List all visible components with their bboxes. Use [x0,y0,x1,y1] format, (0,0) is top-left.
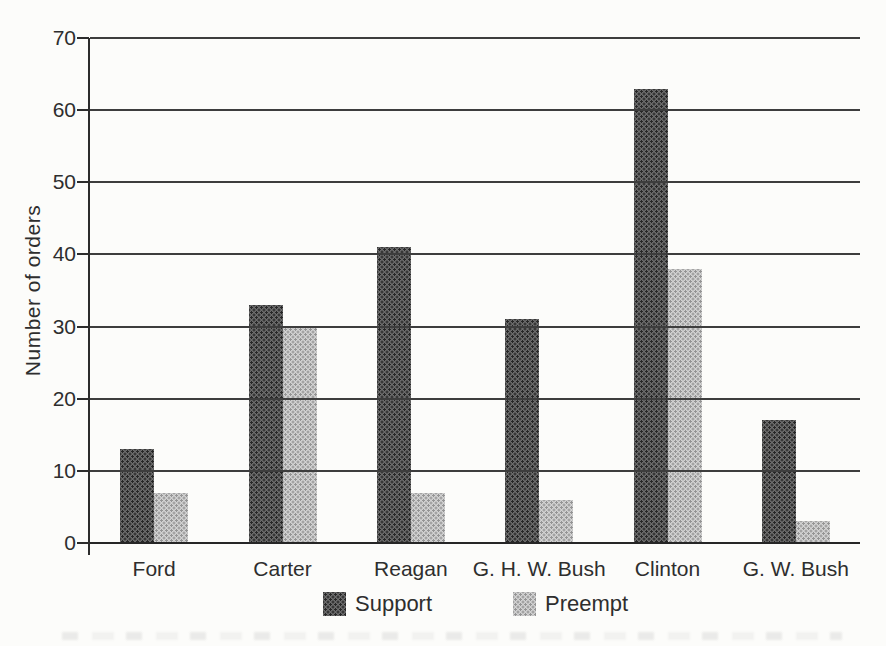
category-label-g-w-bush: G. W. Bush [716,557,876,581]
y-tick-70 [77,37,89,39]
gridline-40 [90,253,860,255]
bar-preempt-clinton [668,269,702,543]
y-tick-label-0: 0 [0,531,76,555]
bar-preempt-carter [283,327,317,543]
bar-support-g-h-w-bush [505,319,539,543]
y-tick-60 [77,109,89,111]
plot-area [90,38,860,543]
y-tick-40 [77,253,89,255]
legend-item-support: Support [323,591,432,617]
y-tick-label-30: 30 [0,315,76,339]
y-tick-label-10: 10 [0,459,76,483]
y-tick-label-70: 70 [0,26,76,50]
y-tick-30 [77,326,89,328]
y-tick-label-20: 20 [0,387,76,411]
legend-label-support: Support [355,591,432,617]
bar-preempt-g-h-w-bush [539,500,573,543]
cropped-caption-remnant [62,632,842,640]
y-tick-0 [77,542,89,544]
gridline-50 [90,181,860,183]
gridline-30 [90,326,860,328]
y-tick-label-60: 60 [0,98,76,122]
bar-support-carter [249,305,283,543]
gridline-0 [90,542,860,544]
gridline-10 [90,470,860,472]
bar-preempt-reagan [411,493,445,544]
legend-label-preempt: Preempt [545,591,628,617]
gridline-70 [90,37,860,39]
y-tick-label-40: 40 [0,242,76,266]
bar-support-reagan [377,247,411,543]
legend-swatch-support [323,592,346,616]
y-tick-50 [77,181,89,183]
bar-preempt-ford [154,493,188,544]
y-tick-label-50: 50 [0,170,76,194]
y-tick-20 [77,398,89,400]
y-tick-10 [77,470,89,472]
bar-preempt-g-w-bush [796,521,830,543]
gridline-20 [90,398,860,400]
bar-support-g-w-bush [762,420,796,543]
legend-swatch-preempt [513,592,536,616]
legend-item-preempt: Preempt [513,591,628,617]
bar-chart-figure: Number of orders 010203040506070 FordCar… [0,0,886,646]
bar-support-ford [120,449,154,543]
y-axis-line [88,38,90,555]
gridline-60 [90,109,860,111]
bar-support-clinton [634,89,668,544]
